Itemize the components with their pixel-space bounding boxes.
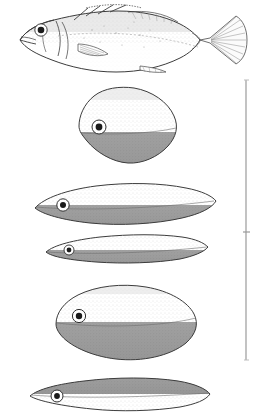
eye bbox=[92, 120, 106, 134]
eye bbox=[64, 245, 74, 255]
eye bbox=[51, 390, 63, 402]
eye bbox=[57, 199, 69, 211]
eye bbox=[72, 309, 85, 322]
eye bbox=[35, 24, 47, 36]
plate-canvas bbox=[0, 0, 262, 416]
illustration-plate bbox=[0, 0, 262, 416]
